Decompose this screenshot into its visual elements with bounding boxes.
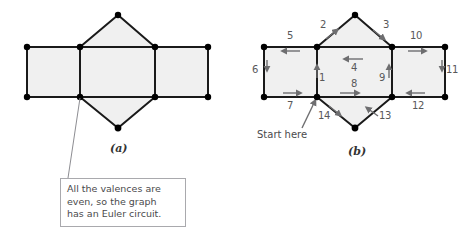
figure-a-label: (a) xyxy=(110,142,128,155)
face-a-hexagon xyxy=(80,15,155,128)
vertex-a xyxy=(205,94,211,100)
start-here-label: Start here xyxy=(257,129,307,140)
vertex-b xyxy=(261,94,267,100)
vertex-b xyxy=(261,44,267,50)
vertex-b xyxy=(442,44,448,50)
edge-label-1: 1 xyxy=(319,72,325,83)
vertex-b xyxy=(314,94,320,100)
face-a-right-square xyxy=(155,47,208,97)
vertex-b xyxy=(442,94,448,100)
callout-leader-line xyxy=(68,98,80,178)
edge-label-6: 6 xyxy=(252,64,258,75)
edge-label-3: 3 xyxy=(383,19,389,30)
edge-label-13: 13 xyxy=(379,110,391,121)
vertex-b xyxy=(352,125,359,132)
callout-line-3: has an Euler circuit. xyxy=(67,208,179,221)
vertex-a xyxy=(115,125,122,132)
face-b-right-square xyxy=(392,47,445,97)
callout-line-2: even, so the graph xyxy=(67,196,179,209)
callout-box: All the valences are even, so the graph … xyxy=(60,178,186,227)
face-a-left-square xyxy=(27,47,80,97)
vertex-a xyxy=(152,94,158,100)
vertex-b xyxy=(389,94,395,100)
edge-label-4: 4 xyxy=(351,62,357,73)
figure-pair-canvas: 1 2 3 4 5 6 7 8 9 10 11 12 13 14 Start h… xyxy=(0,0,474,236)
edge-label-5: 5 xyxy=(287,30,293,41)
arrow-start-here xyxy=(302,101,315,128)
vertex-a xyxy=(115,12,121,18)
vertex-b xyxy=(352,12,358,18)
edge-label-12: 12 xyxy=(412,100,424,111)
vertex-a xyxy=(24,94,30,100)
edge-label-2: 2 xyxy=(320,19,326,30)
face-b-left-square xyxy=(264,47,317,97)
figure-b-label: (b) xyxy=(348,145,366,158)
vertex-b xyxy=(314,44,320,50)
edge-label-8: 8 xyxy=(351,78,357,89)
edge-label-9: 9 xyxy=(379,72,385,83)
edge-label-11: 11 xyxy=(446,64,458,75)
edge-label-7: 7 xyxy=(287,100,293,111)
edge-label-10: 10 xyxy=(410,30,422,41)
vertex-a xyxy=(77,44,83,50)
vertex-a xyxy=(205,44,211,50)
edge-label-14: 14 xyxy=(318,110,330,121)
vertex-a xyxy=(24,44,30,50)
vertex-b xyxy=(389,44,395,50)
callout-line-1: All the valences are xyxy=(67,183,179,196)
vertex-a xyxy=(152,44,158,50)
